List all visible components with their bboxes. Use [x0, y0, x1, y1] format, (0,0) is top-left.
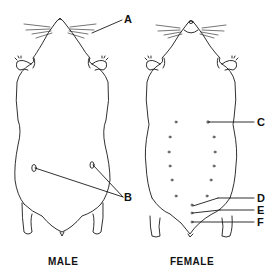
rodent-ventral-view-drawing [0, 0, 276, 274]
caption-male: MALE [48, 256, 78, 267]
label-d: D [257, 193, 265, 204]
label-b: B [124, 192, 132, 203]
label-f: F [257, 217, 264, 228]
label-e: E [257, 205, 264, 216]
label-a: A [124, 14, 132, 25]
female-whiskers [156, 25, 226, 38]
leader-lines-female [193, 122, 254, 222]
female-nipples [168, 121, 216, 223]
caption-female: FEMALE [170, 256, 214, 267]
male-body-outline [15, 18, 110, 236]
label-c: C [257, 117, 265, 128]
male-whiskers [24, 24, 96, 38]
